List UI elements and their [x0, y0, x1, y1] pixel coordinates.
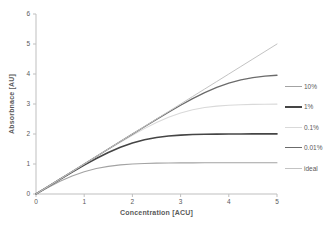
legend-item-10%: 10%: [285, 76, 332, 97]
legend-label: 1%: [304, 103, 313, 110]
y-tick-label: 1: [26, 160, 30, 167]
legend-item-0.01%: 0.01%: [285, 138, 332, 159]
legend-label: 0.01%: [304, 144, 322, 151]
legend-item-1%: 1%: [285, 97, 332, 118]
legend-label: 10%: [304, 83, 317, 90]
legend-line-sample: [285, 86, 302, 87]
legend-line-sample: [285, 127, 302, 128]
series-line-1%: [36, 134, 277, 194]
series-line-0.1%: [36, 104, 277, 194]
legend: 10%1%0.1%0.01%ideal: [285, 76, 332, 179]
y-tick-label: 2: [26, 130, 30, 137]
y-tick-label: 4: [26, 70, 30, 77]
y-tick-label: 6: [26, 10, 30, 17]
stray-light-absorbance-chart: 0123450123456 Absorbnace [AU] Concentrat…: [0, 0, 332, 229]
legend-item-0.1%: 0.1%: [285, 117, 332, 138]
x-axis-title: Concentration [ACU]: [36, 209, 277, 216]
legend-label: ideal: [304, 165, 318, 172]
x-tick-label: 5: [275, 198, 279, 205]
x-tick-label: 1: [82, 198, 86, 205]
x-tick-label: 4: [227, 198, 231, 205]
legend-line-sample: [285, 147, 302, 148]
x-tick-label: 3: [179, 198, 183, 205]
series-line-ideal: [36, 44, 277, 194]
legend-line-sample: [285, 168, 302, 169]
series-line-10%: [36, 163, 277, 194]
y-tick-label: 5: [26, 40, 30, 47]
plot-area: 0123450123456: [0, 0, 332, 229]
x-tick-label: 0: [34, 198, 38, 205]
x-tick-label: 2: [131, 198, 135, 205]
y-axis-title: Absorbnace [AU]: [8, 59, 18, 149]
legend-item-ideal: ideal: [285, 158, 332, 179]
y-tick-label: 0: [26, 190, 30, 197]
legend-label: 0.1%: [304, 124, 319, 131]
y-tick-label: 3: [26, 100, 30, 107]
legend-line-sample: [285, 106, 302, 108]
